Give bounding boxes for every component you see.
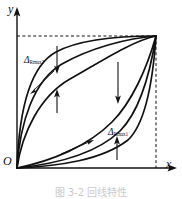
delta-subscript-upper: Rmax2 xyxy=(30,59,45,65)
delta-rmax1-label: ΔRmax1 xyxy=(108,128,128,138)
delta-rmax2-label: ΔRmax2 xyxy=(24,56,44,66)
figure-caption: 图 3-2 回线特性 xyxy=(0,186,182,199)
hysteresis-diagram xyxy=(0,0,182,199)
x-axis-label: x xyxy=(166,158,171,170)
sweep-arrow-upper-downleft xyxy=(30,71,54,94)
gap-arrow-upper-right-down xyxy=(115,62,121,104)
y-axis-label: y xyxy=(8,3,13,15)
figure-page: y x O ΔRmax2 ΔRmax1 图 3-2 回线特性 xyxy=(0,0,182,199)
delta-subscript-lower: Rmax1 xyxy=(114,131,129,137)
sweep-arrow-lower-upright xyxy=(61,140,94,154)
gap-arrow-upper-left-up xyxy=(54,89,60,113)
origin-label: O xyxy=(3,155,12,167)
